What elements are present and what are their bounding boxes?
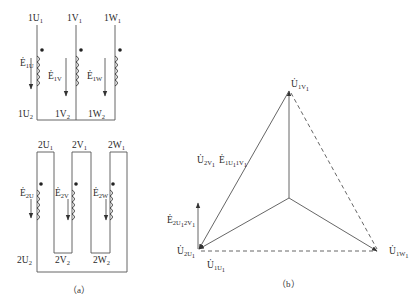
label-u1w: U̇1W1 [389,245,409,258]
label-e2u2v: Ė2U12V1 [167,214,195,228]
terminal-label: 1U1 [28,13,43,24]
caption-a: （a） [68,285,90,295]
phasor-e1u1v [199,91,289,249]
terminal-label: 2W1 [108,140,125,151]
terminal-label: 2V1 [72,140,87,151]
phasor-diagram: U̇1V1 U̇2V1Ė1U11V1 Ė2U12V1 U̇2U1 U̇1U1 U… [167,78,409,289]
terminal-label: 1V1 [67,13,82,24]
label-u1u: U̇1U1 [207,259,225,272]
transformer-connection-diagram: 1U1 1V1 1W1 1U2 1V2 1W2 Ė1U Ė1V Ė1W 2U1 … [0,0,419,304]
terminal-label: 1U2 [18,109,33,120]
emf-label: Ė1V [48,70,62,82]
emf-label: Ė2W [93,187,109,199]
emf-label: Ė2U [20,187,34,199]
emf-label: Ė2V [55,187,69,199]
phasor-u1u [199,198,289,249]
primary-windings: 1U1 1V1 1W1 1U2 1V2 1W2 Ė1U Ė1V Ė1W [18,13,122,120]
polarity-dot-icon [111,182,115,186]
caption-b: （b） [277,279,300,289]
terminal-label: 2U2 [17,255,32,266]
terminal-label: 2W2 [93,255,110,266]
terminal-label: 2V2 [55,255,70,266]
polarity-dot-icon [79,48,83,52]
terminal-label: 1V2 [55,109,70,120]
label-u2v-e1u1v: U̇2V1Ė1U11V1 [197,154,247,168]
terminal-label: 1W2 [88,109,105,120]
terminal-label: 2U1 [38,140,53,151]
label-u2u: U̇2U1 [177,245,195,258]
polarity-dot-icon [118,48,122,52]
terminal-label: 1W1 [104,13,121,24]
polarity-dot-icon [39,182,43,186]
emf-label: Ė1U [20,57,34,69]
secondary-windings: 2U1 2V1 2W1 2U2 2V2 2W2 Ė2U Ė2V Ė2W （a） [17,140,127,295]
polarity-dot-icon [74,182,78,186]
label-u1v: U̇1V1 [291,78,309,91]
emf-label: Ė1W [87,70,103,82]
polarity-dot-icon [40,48,44,52]
